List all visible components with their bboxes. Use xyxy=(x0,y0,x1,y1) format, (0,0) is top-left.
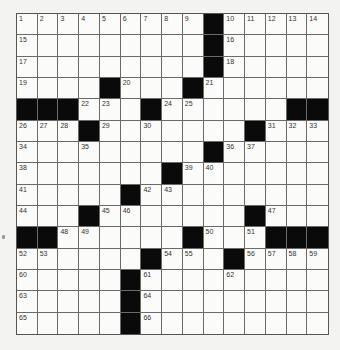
answer-cell[interactable]: 42 xyxy=(141,185,162,206)
answer-cell[interactable]: 15 xyxy=(17,35,38,56)
answer-cell[interactable] xyxy=(224,227,245,248)
answer-cell[interactable] xyxy=(266,291,287,312)
answer-cell[interactable] xyxy=(100,313,121,334)
answer-cell[interactable] xyxy=(307,313,328,334)
answer-cell[interactable] xyxy=(58,249,79,270)
answer-cell[interactable] xyxy=(38,185,59,206)
answer-cell[interactable] xyxy=(58,185,79,206)
answer-cell[interactable] xyxy=(204,249,225,270)
answer-cell[interactable]: 8 xyxy=(162,14,183,35)
answer-cell[interactable] xyxy=(307,35,328,56)
answer-cell[interactable] xyxy=(266,313,287,334)
answer-cell[interactable] xyxy=(287,78,308,99)
answer-cell[interactable] xyxy=(162,35,183,56)
answer-cell[interactable]: 37 xyxy=(245,142,266,163)
answer-cell[interactable] xyxy=(183,57,204,78)
answer-cell[interactable] xyxy=(162,206,183,227)
answer-cell[interactable] xyxy=(204,121,225,142)
answer-cell[interactable] xyxy=(245,57,266,78)
answer-cell[interactable]: 1 xyxy=(17,14,38,35)
answer-cell[interactable]: 41 xyxy=(17,185,38,206)
answer-cell[interactable] xyxy=(266,57,287,78)
answer-cell[interactable]: 48 xyxy=(58,227,79,248)
answer-cell[interactable] xyxy=(79,270,100,291)
answer-cell[interactable]: 52 xyxy=(17,249,38,270)
answer-cell[interactable] xyxy=(266,142,287,163)
answer-cell[interactable] xyxy=(58,206,79,227)
answer-cell[interactable]: 29 xyxy=(100,121,121,142)
answer-cell[interactable] xyxy=(79,35,100,56)
answer-cell[interactable] xyxy=(58,291,79,312)
answer-cell[interactable]: 55 xyxy=(183,249,204,270)
answer-cell[interactable] xyxy=(266,35,287,56)
answer-cell[interactable] xyxy=(121,249,142,270)
answer-cell[interactable] xyxy=(183,142,204,163)
answer-cell[interactable]: 14 xyxy=(307,14,328,35)
answer-cell[interactable]: 43 xyxy=(162,185,183,206)
answer-cell[interactable] xyxy=(162,121,183,142)
answer-cell[interactable] xyxy=(307,291,328,312)
answer-cell[interactable] xyxy=(307,270,328,291)
answer-cell[interactable] xyxy=(224,206,245,227)
answer-cell[interactable] xyxy=(141,78,162,99)
answer-cell[interactable] xyxy=(121,99,142,120)
answer-cell[interactable]: 24 xyxy=(162,99,183,120)
answer-cell[interactable]: 23 xyxy=(100,99,121,120)
answer-cell[interactable] xyxy=(79,163,100,184)
answer-cell[interactable]: 31 xyxy=(266,121,287,142)
answer-cell[interactable] xyxy=(58,270,79,291)
answer-cell[interactable]: 65 xyxy=(17,313,38,334)
answer-cell[interactable] xyxy=(100,291,121,312)
answer-cell[interactable] xyxy=(183,185,204,206)
answer-cell[interactable] xyxy=(121,57,142,78)
answer-cell[interactable] xyxy=(307,57,328,78)
answer-cell[interactable] xyxy=(183,313,204,334)
answer-cell[interactable]: 10 xyxy=(224,14,245,35)
answer-cell[interactable] xyxy=(287,291,308,312)
answer-cell[interactable]: 58 xyxy=(287,249,308,270)
answer-cell[interactable] xyxy=(245,78,266,99)
answer-cell[interactable] xyxy=(204,99,225,120)
answer-cell[interactable]: 2 xyxy=(38,14,59,35)
answer-cell[interactable] xyxy=(307,206,328,227)
answer-cell[interactable]: 33 xyxy=(307,121,328,142)
answer-cell[interactable] xyxy=(58,57,79,78)
answer-cell[interactable] xyxy=(100,249,121,270)
answer-cell[interactable]: 21 xyxy=(204,78,225,99)
answer-cell[interactable] xyxy=(245,99,266,120)
answer-cell[interactable] xyxy=(245,291,266,312)
answer-cell[interactable]: 44 xyxy=(17,206,38,227)
answer-cell[interactable] xyxy=(121,35,142,56)
answer-cell[interactable] xyxy=(287,35,308,56)
answer-cell[interactable] xyxy=(183,270,204,291)
answer-cell[interactable]: 46 xyxy=(121,206,142,227)
answer-cell[interactable] xyxy=(100,227,121,248)
answer-cell[interactable] xyxy=(287,206,308,227)
answer-cell[interactable]: 62 xyxy=(224,270,245,291)
answer-cell[interactable] xyxy=(183,291,204,312)
answer-cell[interactable] xyxy=(224,99,245,120)
answer-cell[interactable] xyxy=(79,249,100,270)
answer-cell[interactable] xyxy=(287,57,308,78)
answer-cell[interactable]: 25 xyxy=(183,99,204,120)
answer-cell[interactable]: 36 xyxy=(224,142,245,163)
answer-cell[interactable] xyxy=(224,163,245,184)
answer-cell[interactable]: 40 xyxy=(204,163,225,184)
answer-cell[interactable] xyxy=(224,291,245,312)
answer-cell[interactable] xyxy=(100,35,121,56)
answer-cell[interactable]: 53 xyxy=(38,249,59,270)
answer-cell[interactable] xyxy=(79,78,100,99)
answer-cell[interactable]: 57 xyxy=(266,249,287,270)
answer-cell[interactable] xyxy=(141,163,162,184)
answer-cell[interactable] xyxy=(58,163,79,184)
answer-cell[interactable] xyxy=(141,57,162,78)
answer-cell[interactable]: 26 xyxy=(17,121,38,142)
answer-cell[interactable]: 6 xyxy=(121,14,142,35)
answer-cell[interactable] xyxy=(141,227,162,248)
answer-cell[interactable] xyxy=(224,121,245,142)
answer-cell[interactable]: 66 xyxy=(141,313,162,334)
answer-cell[interactable] xyxy=(307,78,328,99)
answer-cell[interactable] xyxy=(121,121,142,142)
answer-cell[interactable] xyxy=(307,185,328,206)
answer-cell[interactable] xyxy=(121,163,142,184)
